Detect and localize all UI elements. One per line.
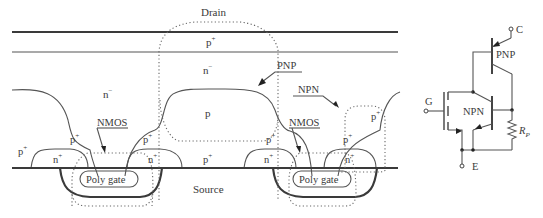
pnp-base-wire xyxy=(473,52,492,92)
npn-emitter-arrow xyxy=(475,124,482,129)
right-n-plus-right: n+ xyxy=(345,152,354,165)
drift-center-label: n− xyxy=(203,63,213,76)
gate-terminal xyxy=(424,109,428,113)
emitter-terminal xyxy=(460,164,464,168)
equivalent-circuit: C PNP NPN G RP xyxy=(424,24,530,172)
collector-label: C xyxy=(516,24,523,35)
left-poly-gate-label: Poly gate xyxy=(86,174,126,185)
nmos-right-arrowhead xyxy=(296,146,301,153)
mos-source-arrow xyxy=(456,128,462,134)
left-p-plus-right: p+ xyxy=(143,132,152,145)
right-nmos-label: NMOS xyxy=(289,117,320,128)
right-n-plus-left: n+ xyxy=(264,152,273,165)
npn-collector xyxy=(473,92,492,102)
left-n-plus-right: n+ xyxy=(148,152,157,165)
drain-label: Drain xyxy=(201,6,227,18)
mos-source-wire xyxy=(448,130,462,150)
collector-terminal xyxy=(509,27,513,31)
npn-leader xyxy=(293,96,336,106)
nmos-left-arrowhead xyxy=(101,146,106,153)
resistor-label: RP xyxy=(518,125,530,139)
npn-emitter xyxy=(473,124,492,130)
emitter-label: E xyxy=(472,161,478,172)
right-poly-gate-label: Poly gate xyxy=(299,174,339,185)
pnp-collector xyxy=(492,64,512,74)
nmos-right-leader xyxy=(292,128,298,148)
p-body-label: p xyxy=(205,107,211,119)
middle-p-plus: p+ xyxy=(203,152,212,165)
igbt-diagram: Drain Source p+ n− n− p p+ p+ n+ p+ n+ P… xyxy=(0,0,543,218)
pnp-emitter-arrow xyxy=(492,41,500,47)
right-p-plus-left: p+ xyxy=(266,132,275,145)
pnp-leader xyxy=(262,72,302,82)
top-p-plus-label: p+ xyxy=(206,35,216,48)
right-p-plus-outer: p+ xyxy=(371,109,380,122)
left-n-plus-left: n+ xyxy=(53,152,62,165)
pnp-annotation: PNP xyxy=(277,60,296,71)
npn-annotation: NPN xyxy=(298,84,319,95)
right-p-plus-right: p+ xyxy=(343,132,352,145)
source-label: Source xyxy=(193,183,224,195)
left-nmos-label: NMOS xyxy=(97,117,128,128)
npn-arrowhead xyxy=(333,101,339,108)
resistor-rp xyxy=(508,110,516,150)
nmos-left-leader xyxy=(97,128,103,148)
npn-circuit-label: NPN xyxy=(463,106,484,117)
pnp-circuit-label: PNP xyxy=(496,49,515,60)
cross-section: Drain Source p+ n− n− p p+ p+ n+ p+ n+ P… xyxy=(12,6,400,206)
left-p-plus-outer: p+ xyxy=(18,144,27,157)
pnp-dotted-region xyxy=(159,22,278,200)
gate-label: G xyxy=(425,96,433,107)
p-body-dotted xyxy=(160,100,278,141)
drift-left-label: n− xyxy=(103,87,113,100)
junction-emitter-2 xyxy=(471,148,475,152)
